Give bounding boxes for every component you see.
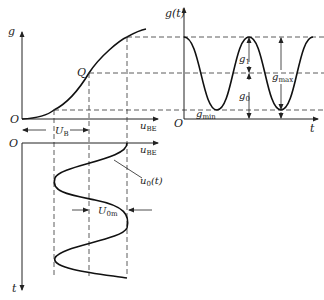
g0-label: g0 (239, 90, 250, 103)
t-axis-label-lower: t (12, 282, 17, 295)
gt-axis-label: g(t) (165, 7, 185, 20)
g-axis-label: g (8, 25, 15, 38)
transfer-curve-plot: g O Q uBE UB (8, 25, 324, 276)
u0m-label: U0m (98, 205, 118, 218)
q-point-label: Q (77, 66, 86, 79)
t-axis-label: t (310, 122, 315, 135)
g1-label: g1 (239, 53, 250, 66)
conductance-diagram: g O Q uBE UB O uBE u0(t) U0m t (0, 0, 324, 300)
origin-label-lower: O (9, 137, 18, 150)
origin-label: O (10, 113, 19, 126)
ube-axis-label-lower: uBE (140, 144, 157, 157)
input-signal-plot: O uBE u0(t) U0m t (9, 137, 163, 295)
signal-leader-line (114, 160, 142, 178)
origin-label-right: O (174, 117, 183, 130)
ube-axis-label: uBE (140, 120, 157, 133)
signal-label: u0(t) (140, 175, 163, 188)
ub-label: UB (55, 125, 69, 138)
output-waveform-plot: g(t) O t g1 g0 gmax gmin (165, 7, 318, 135)
